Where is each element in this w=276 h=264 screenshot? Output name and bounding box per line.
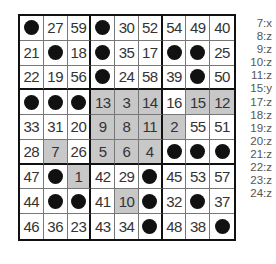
grid-cell[interactable]: 45 [163, 165, 187, 190]
grid-cell[interactable] [186, 41, 210, 66]
grid-cell[interactable]: 23 [68, 214, 92, 239]
grid-cell[interactable]: 5 [91, 140, 115, 165]
legend-item: 21:z [242, 148, 272, 161]
grid-cell[interactable] [163, 140, 187, 165]
grid-cell[interactable]: 38 [186, 214, 210, 239]
grid-cell[interactable]: 56 [68, 66, 92, 91]
grid-cell[interactable]: 3 [115, 90, 139, 115]
grid-cell[interactable]: 18 [68, 41, 92, 66]
grid-cell[interactable]: 26 [68, 140, 92, 165]
grid-cell[interactable]: 42 [91, 165, 115, 190]
grid-cell[interactable] [210, 214, 234, 239]
grid-cell[interactable] [44, 90, 68, 115]
legend-item: 19:z [242, 122, 272, 135]
grid-cell[interactable] [139, 165, 163, 190]
grid-cell[interactable]: 46 [20, 214, 44, 239]
black-dot-icon [142, 219, 157, 234]
black-dot-icon [167, 45, 182, 60]
grid-cell[interactable] [44, 165, 68, 190]
grid-cell[interactable] [186, 189, 210, 214]
grid-cell[interactable] [68, 90, 92, 115]
cell-number: 53 [190, 168, 206, 185]
grid-cell[interactable]: 34 [115, 214, 139, 239]
grid-cell[interactable]: 53 [186, 165, 210, 190]
grid-cell[interactable]: 28 [20, 140, 44, 165]
grid-cell[interactable]: 44 [20, 189, 44, 214]
grid-cell[interactable]: 13 [91, 90, 115, 115]
grid-cell[interactable]: 57 [210, 165, 234, 190]
cell-number: 28 [24, 143, 40, 160]
grid-cell[interactable]: 35 [115, 41, 139, 66]
grid-cell[interactable]: 4 [139, 140, 163, 165]
grid-cell[interactable]: 16 [163, 90, 187, 115]
grid-cell[interactable]: 12 [210, 90, 234, 115]
grid-cell[interactable]: 49 [186, 16, 210, 41]
grid-cell[interactable] [44, 41, 68, 66]
grid-cell[interactable]: 59 [68, 16, 92, 41]
grid-cell[interactable] [91, 16, 115, 41]
grid-cell[interactable]: 22 [20, 66, 44, 91]
grid-cell[interactable] [91, 41, 115, 66]
grid-cell[interactable] [139, 214, 163, 239]
grid-cell[interactable]: 32 [163, 189, 187, 214]
grid-cell[interactable]: 30 [115, 16, 139, 41]
grid-cell[interactable]: 43 [91, 214, 115, 239]
grid-cell[interactable]: 31 [44, 115, 68, 140]
grid-cell[interactable]: 21 [20, 41, 44, 66]
grid-cell[interactable]: 54 [163, 16, 187, 41]
grid-cell[interactable] [91, 66, 115, 91]
grid-cell[interactable]: 6 [115, 140, 139, 165]
grid-cell[interactable]: 51 [210, 115, 234, 140]
grid-cell[interactable]: 40 [210, 16, 234, 41]
grid-cell[interactable] [68, 189, 92, 214]
grid-cell[interactable]: 8 [115, 115, 139, 140]
grid-cell[interactable]: 10 [115, 189, 139, 214]
grid-cell[interactable] [139, 189, 163, 214]
grid-cell[interactable]: 27 [44, 16, 68, 41]
legend-item: 10:z [242, 56, 272, 69]
cell-number: 31 [47, 118, 63, 135]
cell-number: 11 [142, 118, 157, 135]
cell-number: 14 [142, 94, 158, 111]
cell-number: 51 [214, 118, 230, 135]
grid-cell[interactable]: 52 [139, 16, 163, 41]
grid-cell[interactable]: 1 [68, 165, 92, 190]
grid-cell[interactable]: 41 [91, 189, 115, 214]
grid-cell[interactable]: 2 [163, 115, 187, 140]
grid-cell[interactable]: 37 [210, 189, 234, 214]
grid-cell[interactable] [186, 140, 210, 165]
grid-cell[interactable]: 20 [68, 115, 92, 140]
grid-cell[interactable]: 48 [163, 214, 187, 239]
grid-cell[interactable]: 36 [44, 214, 68, 239]
grid-cell[interactable]: 25 [210, 41, 234, 66]
cell-number: 44 [24, 193, 40, 210]
grid-cell[interactable]: 15 [186, 90, 210, 115]
cell-number: 49 [190, 19, 206, 36]
grid-cell[interactable]: 24 [115, 66, 139, 91]
grid-cell[interactable]: 58 [139, 66, 163, 91]
grid-cell[interactable]: 33 [20, 115, 44, 140]
grid-cell[interactable] [163, 41, 187, 66]
legend-item: 23:z [242, 174, 272, 187]
grid-cell[interactable]: 29 [115, 165, 139, 190]
grid-cell[interactable]: 14 [139, 90, 163, 115]
grid-cell[interactable] [20, 90, 44, 115]
cell-number: 2 [170, 118, 178, 135]
grid-cell[interactable]: 39 [163, 66, 187, 91]
grid-cell[interactable]: 17 [139, 41, 163, 66]
grid-cell[interactable] [44, 189, 68, 214]
grid-cell[interactable]: 11 [139, 115, 163, 140]
black-dot-icon [190, 194, 205, 209]
grid-cell[interactable]: 47 [20, 165, 44, 190]
grid-cell[interactable] [186, 66, 210, 91]
black-dot-icon [190, 45, 205, 60]
grid-cell[interactable]: 19 [44, 66, 68, 91]
grid-cell[interactable]: 9 [91, 115, 115, 140]
grid-cell[interactable] [210, 140, 234, 165]
black-dot-icon [24, 20, 39, 35]
grid-cell[interactable]: 7 [44, 140, 68, 165]
cell-number: 22 [24, 68, 40, 85]
grid-cell[interactable]: 55 [186, 115, 210, 140]
grid-cell[interactable]: 50 [210, 66, 234, 91]
grid-cell[interactable] [20, 16, 44, 41]
